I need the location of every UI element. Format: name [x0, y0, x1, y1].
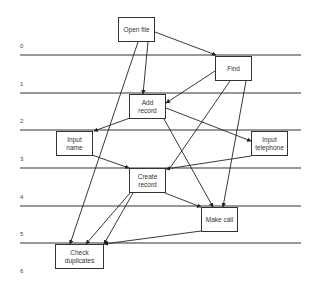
row-label-3: 3 [20, 156, 23, 162]
row-label-1: 1 [20, 81, 23, 87]
node-create-record: Create record [129, 168, 166, 193]
edge-input-telephone-to-create-record [166, 156, 251, 169]
row-label-0: 0 [20, 43, 23, 49]
task-graph-diagram: 0 1 2 3 4 5 6 Open file Find Add record … [0, 0, 314, 292]
node-check-duplicates: Check duplicates [55, 244, 104, 269]
edge-create-record-to-make-call [165, 193, 201, 207]
edge-make-call-to-check-duplicates [104, 231, 201, 244]
row-label-4: 4 [20, 194, 23, 200]
node-input-telephone: Input telephone [251, 131, 288, 156]
node-make-call: Make call [201, 207, 238, 232]
edge-find-to-make-call [223, 81, 246, 207]
edge-find-to-add-record [166, 71, 215, 103]
node-find: Find [215, 56, 252, 81]
node-add-record: Add record [129, 94, 166, 119]
node-open-file: Open file [118, 17, 155, 42]
row-label-2: 2 [20, 118, 23, 124]
node-input-name: Input name [56, 131, 93, 156]
edge-open-file-to-find [155, 32, 216, 55]
row-label-5: 5 [20, 231, 23, 237]
edge-open-file-to-add-record [143, 42, 148, 94]
row-label-6: 6 [20, 268, 23, 274]
